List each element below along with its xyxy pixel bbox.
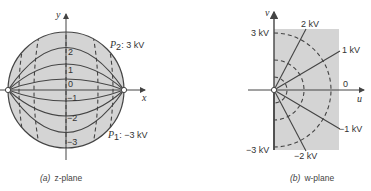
p2-label: P2: 3 kV — [109, 39, 144, 52]
left-endpoint — [5, 87, 10, 92]
label-2kv: 2 kV — [301, 19, 319, 29]
x-axis-label: x — [141, 92, 147, 103]
z-plane-caption: (a)z-plane — [40, 173, 83, 183]
potential-label-0: 0 — [68, 79, 73, 89]
potential-label-1: 1 — [68, 65, 73, 75]
potential-label-2: 2 — [68, 47, 73, 57]
label-1kv: 1 kV — [342, 45, 360, 55]
w-origin — [271, 87, 276, 92]
y-axis-label: y — [55, 9, 61, 20]
figure: x y 2 1 0 −1 −2 −3 P2: 3 kV P1: −3 kV (a… — [0, 0, 371, 191]
w-plane-diagram: u v 3 kV −3 kV 2 kV 1 kV 0 −1 kV −2 kV (… — [246, 7, 364, 183]
u-axis-label: u — [357, 93, 362, 104]
label-m2kv: −2 kV — [294, 151, 317, 161]
w-plane-caption: (b)w-plane — [290, 173, 334, 183]
potential-label-m1: −1 — [67, 93, 77, 103]
label-3kv: 3 kV — [251, 28, 269, 38]
label-0: 0 — [343, 79, 348, 89]
potential-label-m3: −3 — [67, 137, 77, 147]
z-plane-diagram: x y 2 1 0 −1 −2 −3 P2: 3 kV P1: −3 kV (a… — [0, 9, 147, 183]
label-m3kv: −3 kV — [246, 145, 269, 155]
potential-label-m2: −2 — [67, 113, 77, 123]
v-axis-label: v — [265, 7, 270, 18]
right-endpoint — [121, 87, 126, 92]
label-m1kv: −1 kV — [339, 124, 362, 134]
p1-label: P1: −3 kV — [107, 129, 147, 142]
